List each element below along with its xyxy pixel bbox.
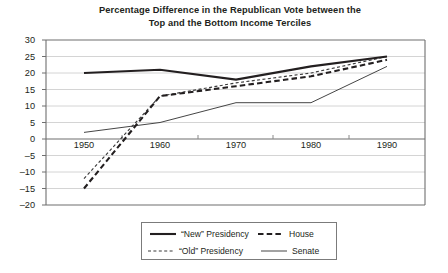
y-tick-label-30: 30 <box>9 35 35 45</box>
legend-label-new-presidency: “New” Presidency <box>181 229 249 239</box>
y-tick-label-10: 10 <box>9 101 35 111</box>
legend-entry-house: House <box>258 229 314 239</box>
legend-row-1: “New” Presidency House <box>142 225 336 242</box>
legend-swatch-thin-solid-icon <box>261 247 287 255</box>
legend-label-senate: Senate <box>292 246 319 256</box>
y-tick-label-15: 15 <box>9 85 35 95</box>
x-tick-label-1980: 1980 <box>291 140 331 150</box>
series-line-new-presidency <box>84 57 387 80</box>
y-tick-label-neg10: –10 <box>9 167 35 177</box>
series-line-old-presidency <box>84 57 387 179</box>
x-tick-label-1960: 1960 <box>140 140 180 150</box>
x-tick-label-1990: 1990 <box>367 140 407 150</box>
y-tick-label-20: 20 <box>9 68 35 78</box>
y-tick-label-neg20: –20 <box>9 200 35 210</box>
chart-figure: Percentage Difference in the Republican … <box>0 0 448 273</box>
legend-label-house: House <box>289 229 314 239</box>
y-tick-label-25: 25 <box>9 52 35 62</box>
legend-entry-senate: Senate <box>261 246 319 256</box>
y-tick-label-0: 0 <box>9 134 35 144</box>
chart-legend: “New” Presidency House “Old” Presidency <box>141 222 337 260</box>
legend-swatch-thin-dashed-icon <box>148 247 174 255</box>
legend-label-old-presidency: “Old” Presidency <box>179 246 243 256</box>
legend-swatch-thick-solid-icon <box>150 230 176 238</box>
legend-swatch-thick-dashed-icon <box>258 230 284 238</box>
y-tick-label-5: 5 <box>9 118 35 128</box>
y-gridlines <box>46 57 425 189</box>
x-minor-ticks <box>122 135 349 139</box>
legend-entry-new-presidency: “New” Presidency <box>150 229 249 239</box>
y-tick-label-neg5: –5 <box>9 151 35 161</box>
legend-row-2: “Old” Presidency Senate <box>142 242 336 259</box>
x-tick-label-1950: 1950 <box>64 140 104 150</box>
x-tick-label-1970: 1970 <box>216 140 256 150</box>
y-tick-label-neg15: –15 <box>9 184 35 194</box>
y-ticks <box>42 40 46 205</box>
legend-entry-old-presidency: “Old” Presidency <box>148 246 243 256</box>
